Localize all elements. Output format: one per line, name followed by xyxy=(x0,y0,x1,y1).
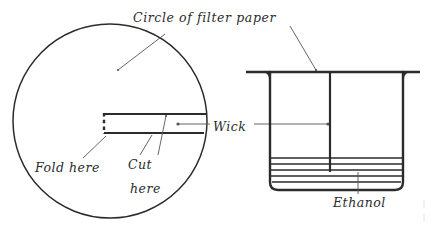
diagram-canvas: Circle of filter paper Wick Fold here Cu… xyxy=(0,0,437,230)
leader-cut-top-dot xyxy=(165,115,167,117)
leader-cut-top xyxy=(158,116,166,155)
beaker-outline xyxy=(270,72,403,190)
filter-paper-circle xyxy=(13,24,207,218)
label-circle-of-filter-paper: Circle of filter paper xyxy=(133,11,276,24)
leader-circle-label xyxy=(118,34,165,70)
wick-arrow-left-head xyxy=(176,122,179,125)
label-fold-here: Fold here xyxy=(35,161,100,174)
leader-cut-bottom xyxy=(140,135,152,155)
label-cut-here-line2: here xyxy=(130,182,161,195)
label-cut-here-line1: Cut xyxy=(128,158,152,171)
label-wick: Wick xyxy=(213,120,246,133)
leader-paper-lid xyxy=(290,26,316,70)
label-ethanol: Ethanol xyxy=(333,196,386,209)
leader-circle-dot xyxy=(117,69,119,71)
leader-fold-here xyxy=(83,136,106,158)
leader-paper-lid-dot xyxy=(315,69,317,71)
